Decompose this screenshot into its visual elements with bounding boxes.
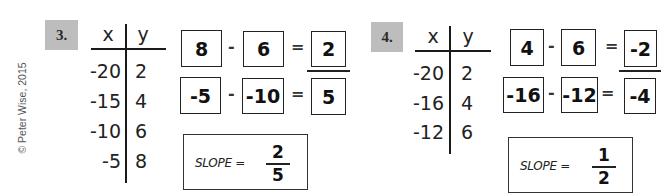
answer-box-x1[interactable]: -12 [561,77,598,113]
table-header-y: y [131,23,155,45]
answer-box-y2[interactable]: 4 [510,29,544,66]
table-cell-x: -20 [402,62,444,84]
table-cell-x: -5 [80,150,121,172]
minus-sign: - [548,36,555,55]
minus-sign: - [228,37,235,56]
answer-box-y1[interactable]: 6 [561,29,596,66]
table-cell-x: -15 [80,90,121,112]
problem-number-badge: 3. [45,20,78,50]
minus-sign: - [228,84,235,103]
table-cell-y: 2 [135,60,147,82]
answer-box-rise[interactable]: 2 [311,31,346,67]
table-divider [125,24,127,183]
minus-sign: - [548,83,555,102]
table-cell-x: -12 [402,121,444,143]
answer-box-y1[interactable]: 6 [243,31,284,67]
table-cell-y: 6 [135,120,147,142]
equals-sign: = [291,84,304,103]
equals-sign: = [605,36,618,55]
slope-denominator: 2 [594,168,614,188]
table-cell-y: 4 [135,90,147,112]
slope-label: SLOPE = [195,156,245,170]
slope-denominator: 5 [268,165,288,185]
problem-number-badge: 4. [371,22,403,52]
table-cell-x: -16 [402,92,444,114]
slope-numerator: 2 [268,142,288,162]
table-cell-y: 8 [135,150,147,172]
fraction-bar [307,70,350,72]
equals-sign: = [291,37,304,56]
answer-box-x2[interactable]: -16 [503,77,544,113]
table-header-y: y [456,25,480,47]
table-cell-y: 6 [461,121,473,143]
table-divider [449,26,451,154]
equals-sign: = [601,83,614,102]
table-cell-y: 4 [461,92,473,114]
answer-box-run[interactable]: 5 [311,78,346,115]
slope-label: SLOPE = [520,159,570,173]
table-header-rule [415,50,491,52]
table-header-x: x [96,23,120,45]
answer-box-x2[interactable]: -5 [180,77,221,114]
table-cell-y: 2 [461,62,473,84]
answer-box-x1[interactable]: -10 [242,78,284,114]
answer-box-rise[interactable]: -2 [624,30,657,67]
copyright-text: © Peter Wise, 2015 [16,62,28,153]
table-cell-x: -20 [80,60,121,82]
fraction-bar [619,70,661,72]
answer-box-run[interactable]: -4 [624,78,656,114]
table-header-rule [91,48,166,50]
slope-numerator: 1 [594,145,614,165]
answer-box-y2[interactable]: 8 [181,30,222,67]
table-cell-x: -10 [80,120,121,142]
table-header-x: x [421,25,445,47]
